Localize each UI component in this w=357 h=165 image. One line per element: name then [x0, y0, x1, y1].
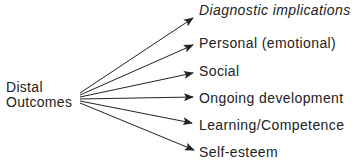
- target-ongoing-development: Ongoing development: [199, 90, 344, 106]
- arrow-to-diagnostic-implications: [80, 18, 193, 93]
- target-personal-emotional: Personal (emotional): [199, 35, 336, 51]
- target-learning-competence: Learning/Competence: [199, 117, 344, 133]
- source-label-line1: Distal: [6, 80, 72, 95]
- arrow-to-personal-emotional: [80, 45, 193, 95]
- source-label-line2: Outcomes: [6, 95, 72, 110]
- target-social: Social: [199, 63, 240, 79]
- target-self-esteem: Self-esteem: [199, 144, 278, 160]
- arrow-to-ongoing-development: [80, 97, 193, 99]
- target-diagnostic-implications: Diagnostic implications: [199, 2, 351, 18]
- arrow-to-learning-competence: [80, 101, 192, 123]
- arrow-to-social: [80, 73, 193, 97]
- arrow-to-self-esteem: [80, 103, 194, 150]
- source-node-distal-outcomes: Distal Outcomes: [6, 80, 72, 110]
